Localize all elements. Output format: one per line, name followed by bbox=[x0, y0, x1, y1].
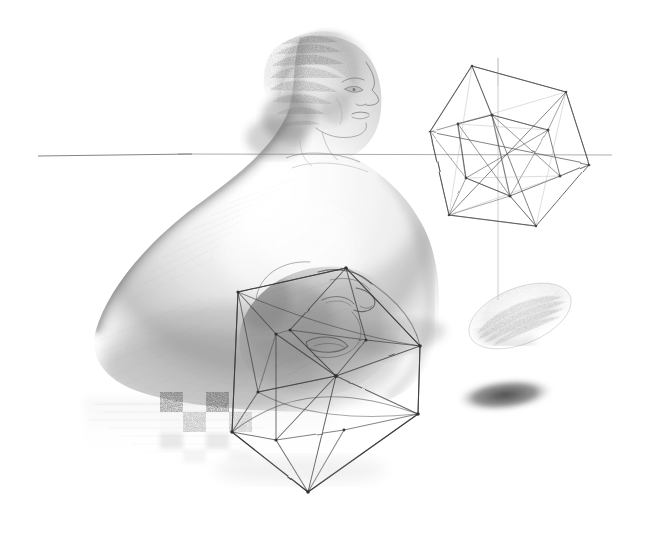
artwork-canvas: Pencil study: seated figure with wirefra… bbox=[0, 0, 648, 534]
pencil-drawing bbox=[0, 0, 648, 534]
lower-cage-ground-shadow bbox=[214, 456, 386, 484]
